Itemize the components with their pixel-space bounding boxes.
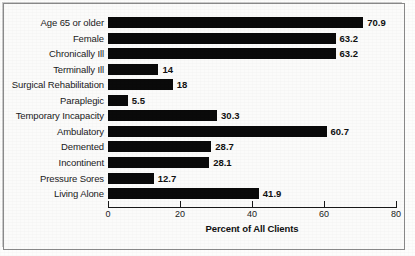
bar (108, 48, 336, 59)
bar-row: Ambulatory60.7 (0, 125, 415, 138)
bar (108, 64, 158, 75)
chart-figure: Age 65 or older70.9Female63.2Chronically… (0, 0, 415, 256)
plot-area: Age 65 or older70.9Female63.2Chronically… (0, 0, 415, 256)
bar-row: Female63.2 (0, 32, 415, 45)
bar-value-label: 41.9 (263, 187, 282, 200)
bar (108, 33, 336, 44)
bar-category-label: Age 65 or older (0, 16, 104, 29)
bar-value-label: 12.7 (158, 172, 177, 185)
bar-category-label: Terminally Ill (0, 63, 104, 76)
bar-value-label: 63.2 (340, 47, 359, 60)
bar-value-label: 5.5 (132, 94, 145, 107)
x-axis-tick-label: 0 (93, 209, 123, 219)
x-axis-title: Percent of All Clients (108, 223, 396, 234)
bar-category-label: Surgical Rehabilitation (0, 78, 104, 91)
bar-category-label: Temporary Incapacity (0, 109, 104, 122)
bar (108, 95, 128, 106)
bar-row: Age 65 or older70.9 (0, 16, 415, 29)
bar-value-label: 30.3 (221, 109, 240, 122)
bar (108, 126, 327, 137)
bar-row: Living Alone41.9 (0, 187, 415, 200)
bar-row: Surgical Rehabilitation18 (0, 78, 415, 91)
bar-row: Incontinent28.1 (0, 156, 415, 169)
bar-row: Pressure Sores12.7 (0, 172, 415, 185)
bar-category-label: Living Alone (0, 187, 104, 200)
x-axis-tick (396, 201, 397, 208)
bar-value-label: 14 (162, 63, 173, 76)
x-axis-tick-label: 20 (165, 209, 195, 219)
x-axis-tick-label: 80 (381, 209, 411, 219)
x-axis-line (108, 207, 396, 208)
bar (108, 17, 363, 28)
bar-value-label: 60.7 (331, 125, 350, 138)
bar (108, 173, 154, 184)
bar-category-label: Demented (0, 140, 104, 153)
bar-category-label: Pressure Sores (0, 172, 104, 185)
bar-row: Chronically Ill63.2 (0, 47, 415, 60)
bar-category-label: Paraplegic (0, 94, 104, 107)
bar (108, 141, 211, 152)
x-axis-tick-label: 60 (309, 209, 339, 219)
bar (108, 110, 217, 121)
bar-category-label: Ambulatory (0, 125, 104, 138)
bar (108, 157, 209, 168)
bar (108, 188, 259, 199)
bar (108, 79, 173, 90)
bar-category-label: Incontinent (0, 156, 104, 169)
bar-value-label: 70.9 (367, 16, 386, 29)
bar-value-label: 63.2 (340, 32, 359, 45)
bar-value-label: 28.7 (215, 140, 234, 153)
bar-category-label: Female (0, 32, 104, 45)
bar-value-label: 28.1 (213, 156, 232, 169)
bar-category-label: Chronically Ill (0, 47, 104, 60)
bar-row: Paraplegic5.5 (0, 94, 415, 107)
bar-value-label: 18 (177, 78, 188, 91)
x-axis-tick-label: 40 (237, 209, 267, 219)
bar-row: Demented28.7 (0, 140, 415, 153)
bar-row: Temporary Incapacity30.3 (0, 109, 415, 122)
bar-row: Terminally Ill14 (0, 63, 415, 76)
